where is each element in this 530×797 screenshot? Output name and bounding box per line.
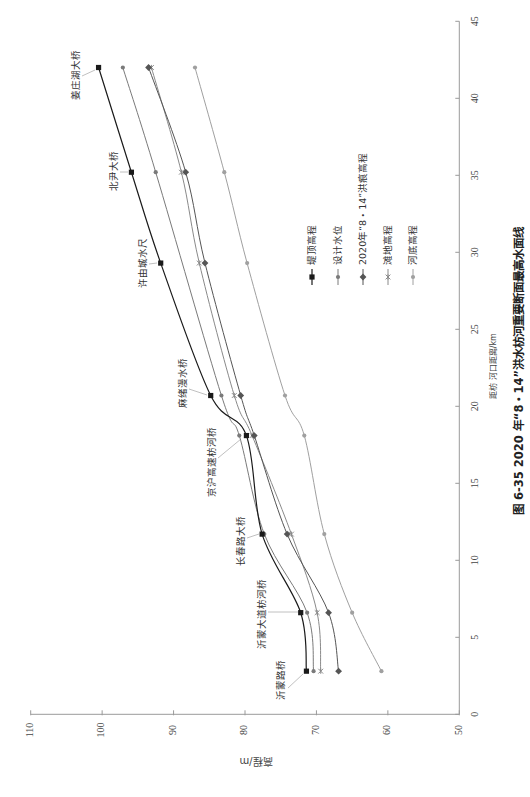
riverbed-marker-circle-icon xyxy=(193,65,197,69)
station-label: 沂蒙大道枋河桥 xyxy=(256,579,267,649)
series-flood-mark-2020-line xyxy=(145,64,342,674)
distance-tick-label: 45 xyxy=(469,16,480,26)
riverbed-marker-circle-icon xyxy=(283,393,287,397)
axes: 1101009080706050051015202530354045高程/m距枋… xyxy=(24,16,498,768)
floodplain-marker-x-icon xyxy=(386,274,391,279)
distance-tick-label: 0 xyxy=(469,712,480,717)
series-riverbed-line xyxy=(193,65,384,673)
riverbed-line xyxy=(195,68,381,672)
station-label: 长春路大桥 xyxy=(235,516,246,566)
station-label: 沂蒙路桥 xyxy=(275,660,286,700)
flood-mark-marker-diamond-icon xyxy=(360,274,367,281)
station-leader-line xyxy=(189,389,207,395)
design-level-marker-circle-icon xyxy=(311,669,315,673)
station-label: 北尹大桥 xyxy=(108,151,119,191)
riverbed-marker-circle-icon xyxy=(245,261,249,265)
elevation-tick-label: 110 xyxy=(24,723,35,738)
station-leader-line xyxy=(247,534,259,538)
legend-item-design-water-level: 设计水位 xyxy=(332,225,343,285)
flood-mark-marker-diamond-icon xyxy=(237,392,244,399)
elevation-tick-label: 90 xyxy=(167,725,178,735)
dike-crest-marker-square-icon xyxy=(260,532,265,537)
distance-tick-label: 10 xyxy=(469,555,480,565)
figure-caption-group: 图 6-35 2020 年“8・14”洪水枋河重要断面最高水面线 xyxy=(512,226,526,515)
floodplain-marker-x-icon xyxy=(232,393,237,398)
distance-tick-label: 40 xyxy=(469,93,480,103)
floodplain-marker-x-icon xyxy=(197,260,202,265)
elevation-axis-title: 高程/m xyxy=(239,756,272,768)
design-level-marker-circle-icon xyxy=(121,65,125,69)
station-label: 京沪高速枋河桥 xyxy=(206,427,217,497)
series-design-water-level-line xyxy=(121,65,316,673)
dike-crest-marker-square-icon xyxy=(309,274,314,279)
figure-caption: 图 6-35 2020 年“8・14”洪水枋河重要断面最高水面线 xyxy=(512,226,526,515)
riverbed-marker-circle-icon xyxy=(302,433,306,437)
station-leader-line xyxy=(82,70,95,76)
station-leader-line xyxy=(149,263,157,264)
legend: 堤顶高程设计水位2020年“8・14”洪痕高程滩地高程河底高程 xyxy=(306,153,418,285)
legend-label: 设计水位 xyxy=(332,225,343,265)
dike-crest-marker-square-icon xyxy=(158,260,163,265)
floodplain-marker-x-icon xyxy=(318,669,323,674)
legend-item-dike-crest: 堤顶高程 xyxy=(306,225,317,285)
station-leader-line xyxy=(288,674,303,688)
station-label: 麻绪漫水桥 xyxy=(177,358,188,408)
water-surface-profile-chart: 1101009080706050051015202530354045高程/m距枋… xyxy=(0,0,530,797)
series-floodplain-line xyxy=(149,65,323,674)
flood-mark-marker-diamond-icon xyxy=(335,668,342,675)
riverbed-marker-circle-icon xyxy=(379,669,383,673)
riverbed-marker-circle-icon xyxy=(411,275,415,279)
design-level-marker-circle-icon xyxy=(336,275,340,279)
legend-label: 滩地高程 xyxy=(382,225,393,265)
legend-label: 河底高程 xyxy=(407,225,418,265)
elevation-tick-label: 70 xyxy=(310,725,321,735)
distance-tick-label: 5 xyxy=(469,635,480,640)
flood-mark-marker-diamond-icon xyxy=(325,609,332,616)
station-label: 许由城水尺 xyxy=(137,238,148,288)
dike-crest-marker-square-icon xyxy=(244,433,249,438)
dike-crest-marker-square-icon xyxy=(298,610,303,615)
legend-item-riverbed: 河底高程 xyxy=(407,225,418,285)
distance-tick-label: 25 xyxy=(469,324,480,334)
dike-crest-marker-square-icon xyxy=(208,393,213,398)
design-level-marker-circle-icon xyxy=(305,611,309,615)
flood-mark-marker-diamond-icon xyxy=(202,260,209,267)
distance-tick-label: 35 xyxy=(469,170,480,180)
elevation-tick-label: 80 xyxy=(238,725,249,735)
legend-item-floodplain: 滩地高程 xyxy=(382,225,393,285)
distance-tick-label: 20 xyxy=(469,401,480,411)
legend-label: 2020年“8・14”洪痕高程 xyxy=(357,153,368,265)
elevation-tick-label: 50 xyxy=(453,725,464,735)
dike-crest-line xyxy=(99,68,307,672)
riverbed-marker-circle-icon xyxy=(322,532,326,536)
distance-tick-label: 15 xyxy=(469,478,480,488)
legend-item-flood-mark-2020: 2020年“8・14”洪痕高程 xyxy=(357,153,368,285)
plot-series xyxy=(96,64,384,674)
legend-label: 堤顶高程 xyxy=(306,225,317,265)
riverbed-marker-circle-icon xyxy=(350,611,354,615)
figure-page: 1101009080706050051015202530354045高程/m距枋… xyxy=(0,0,530,797)
station-label: 姜庄湖大桥 xyxy=(70,50,81,100)
distance-axis-title: 距枋 河口距离/km xyxy=(488,333,498,399)
station-leader-line xyxy=(218,439,241,458)
dike-crest-marker-square-icon xyxy=(304,669,309,674)
dike-crest-marker-square-icon xyxy=(129,170,134,175)
elevation-tick-label: 60 xyxy=(381,725,392,735)
dike-crest-marker-square-icon xyxy=(96,65,101,70)
design-level-marker-circle-icon xyxy=(237,433,241,437)
distance-tick-label: 30 xyxy=(469,247,480,257)
riverbed-marker-circle-icon xyxy=(222,170,226,174)
design-level-marker-circle-icon xyxy=(154,170,158,174)
floodplain-marker-x-icon xyxy=(315,610,320,615)
elevation-tick-label: 100 xyxy=(95,723,106,738)
design-level-marker-circle-icon xyxy=(219,393,223,397)
